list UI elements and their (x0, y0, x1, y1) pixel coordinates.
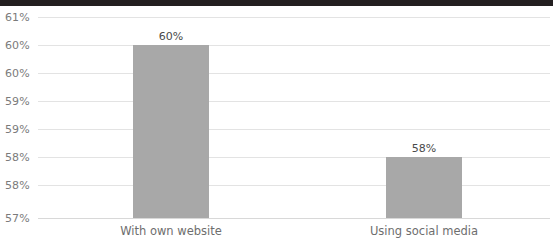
y-axis-tick-label: 61% (5, 11, 35, 24)
gridline (38, 73, 550, 74)
y-axis-tick-label: 57% (5, 212, 35, 225)
y-axis-tick-label: 60% (5, 67, 35, 80)
y-axis-tick-label: 58% (5, 151, 35, 164)
bar-chart: 61% 60% 60% 59% 59% 58% 58% 57% 60% With… (0, 0, 560, 241)
category-label-with-own-website: With own website (63, 224, 279, 238)
gridline (38, 17, 550, 18)
gridline (38, 45, 550, 46)
plot-area: 61% 60% 60% 59% 59% 58% 58% 57% 60% With… (0, 0, 560, 241)
bar-with-own-website[interactable] (133, 45, 209, 218)
bar-value-label: 58% (386, 142, 462, 155)
gridline (38, 129, 550, 130)
category-label-using-social-media: Using social media (316, 224, 532, 238)
bar-value-label: 60% (133, 30, 209, 43)
gridline (38, 101, 550, 102)
y-axis-tick-label: 59% (5, 123, 35, 136)
y-axis-tick-label: 58% (5, 179, 35, 192)
bar-using-social-media[interactable] (386, 157, 462, 218)
axis-baseline (38, 218, 550, 219)
y-axis-tick-label: 59% (5, 95, 35, 108)
gridline (38, 185, 550, 186)
y-axis-tick-label: 60% (5, 39, 35, 52)
gridline (38, 157, 550, 158)
